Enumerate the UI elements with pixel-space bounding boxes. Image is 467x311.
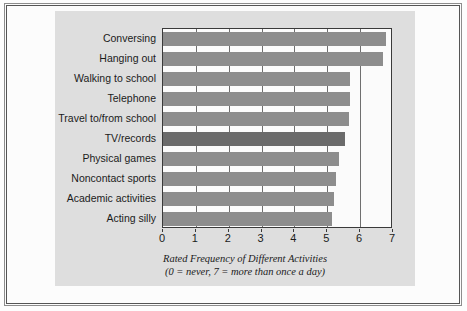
bar (163, 52, 383, 66)
tick-label: 4 (283, 232, 303, 244)
tick-label: 0 (152, 232, 172, 244)
category-label: TV/records (105, 128, 156, 148)
category-label: Acting silly (106, 208, 156, 228)
caption-line-2: (0 = never, 7 = more than once a day) (120, 265, 370, 278)
category-label: Travel to/from school (58, 108, 156, 128)
plot-area (162, 28, 392, 228)
tick-label: 7 (382, 232, 402, 244)
bar (163, 192, 334, 206)
x-axis-ticks: 01234567 (162, 229, 394, 247)
figure-page: ConversingHanging outWalking to schoolTe… (0, 0, 467, 311)
tick-label: 5 (316, 232, 336, 244)
caption-line-1: Rated Frequency of Different Activities (120, 252, 370, 265)
chart-caption: Rated Frequency of Different Activities … (120, 252, 370, 278)
bar (163, 92, 350, 106)
bar (163, 112, 349, 126)
y-axis-category-labels: ConversingHanging outWalking to schoolTe… (56, 28, 160, 228)
category-label: Physical games (82, 148, 156, 168)
bar (163, 32, 386, 46)
category-label: Walking to school (74, 68, 156, 88)
bar (163, 72, 350, 86)
category-label: Telephone (108, 88, 156, 108)
tick-label: 3 (251, 232, 271, 244)
bar (163, 172, 336, 186)
category-label: Academic activities (67, 188, 156, 208)
bar (163, 152, 339, 166)
category-label: Conversing (103, 28, 156, 48)
tick-label: 6 (349, 232, 369, 244)
tick-label: 2 (218, 232, 238, 244)
bar (163, 132, 345, 146)
category-label: Noncontact sports (71, 168, 156, 188)
bar (163, 212, 332, 226)
category-label: Hanging out (99, 48, 156, 68)
tick-label: 1 (185, 232, 205, 244)
